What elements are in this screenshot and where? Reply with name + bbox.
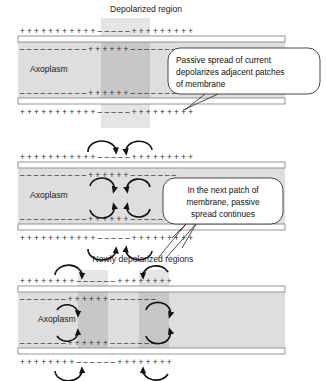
panel-3-heading: Newly depolarized regions: [93, 254, 194, 264]
panel-3-inner-bottom-charges: – – – – – – – + + + + + + – – – – – – –: [20, 339, 156, 348]
panel-1-axoplasm-label: Axoplasm: [30, 64, 68, 74]
panel-3-top-membrane: [18, 286, 285, 292]
nerve-impulse-propagation-diagram: Depolarized region + + + + + + + + + + +…: [0, 0, 326, 381]
panel-2-outer-bottom-charges: + + + + + + + + + + + – – – – – + + + + …: [20, 234, 193, 243]
panel-1-inner-bottom-charges: – – – – – – – – – – + + + + + + – – – – …: [20, 89, 177, 98]
callout-1-line-2: depolarizes adjacent patches: [176, 67, 284, 77]
callout-1-line-3: of membrane: [176, 79, 226, 89]
panel-3-outer-bottom-charges: + + + + + + + + – – – – – – + + + + + + …: [20, 358, 172, 367]
panel-1-bottom-membrane: [18, 98, 285, 104]
callout-2-line-2: membrane, passive: [186, 197, 259, 207]
panel-1-outer-top-charges: + + + + + + + + + + + – – – – – + + + + …: [20, 27, 193, 36]
panel-1-outer-bottom-charges: + + + + + + + + + + + – – – – – + + + + …: [20, 108, 193, 117]
figure-canvas: Depolarized region + + + + + + + + + + +…: [0, 0, 326, 381]
panel-3-axoplasm-label: Axoplasm: [38, 314, 76, 324]
panel-1-heading: Depolarized region: [110, 4, 182, 14]
panel-1-inner-top-charges: – – – – – – – – – – + + + + + + – – – – …: [20, 45, 177, 54]
panel-2-bottom-membrane: [18, 224, 285, 230]
panel-1-top-membrane: [18, 36, 285, 42]
panel-3-outer-top-charges: + + + + + + + + – – – – – – + + + + + + …: [20, 277, 172, 286]
panel-2-top-membrane: [18, 162, 285, 168]
panel-3-bottom-membrane: [18, 348, 285, 354]
panel-3-inner-top-charges: – – – – – – – + + + + + + – – – – – – –: [20, 295, 156, 304]
callout-1-line-1: Passive spread of current: [176, 55, 272, 65]
panel-2-outer-top-charges: + + + + + + + + + + + – – – – – + + + + …: [20, 153, 193, 162]
panel-2-inner-bottom-charges: – – – – – – – – – – + + + + + + – – – – …: [20, 215, 177, 224]
callout-2-line-3: spread continues: [191, 209, 255, 219]
panel-2-axoplasm-label: Axoplasm: [30, 190, 68, 200]
callout-2-line-1: In the next patch of: [187, 185, 259, 195]
